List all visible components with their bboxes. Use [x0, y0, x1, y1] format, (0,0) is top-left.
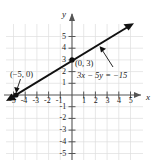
x-tick-label-3: 3 [105, 97, 109, 105]
grid-lines [6, 24, 143, 160]
y-tick-label-4: 4 [62, 44, 66, 52]
x-tick-label--4: -4 [21, 97, 28, 105]
x-tick-label-2: 2 [94, 97, 98, 105]
y-tick-label--2: -2 [60, 114, 67, 122]
y-tick-label--5: -5 [60, 150, 67, 158]
y-tick-label--4: -4 [60, 138, 67, 146]
y-tick-label-1: 1 [62, 79, 66, 87]
equation-label: 3x − 5y = −15 [77, 71, 127, 80]
axes [4, 14, 141, 160]
coordinate-plane-svg [0, 0, 155, 165]
y-intercept-point-label: (0, 3) [75, 59, 93, 68]
x-axis-label: x [146, 93, 150, 102]
x-tick-label--5: -5 [9, 97, 16, 105]
x-tick-label-4: 4 [117, 97, 121, 105]
y-tick-label--3: -3 [60, 126, 67, 134]
y-axis-arrowhead [69, 13, 75, 21]
y-tick-label--1: -1 [60, 103, 67, 111]
x-intercept-point-label: (−5, 0) [10, 70, 33, 79]
y-tick-label-2: 2 [62, 68, 66, 76]
x-tick-label-5: 5 [129, 97, 133, 105]
y-tick-label-3: 3 [62, 56, 66, 64]
point-marker-y-intercept [69, 57, 74, 62]
x-tick-label--2: -2 [44, 97, 51, 105]
x-axis-arrowhead [134, 92, 141, 98]
graph-figure: y x -5 -4 -3 -2 -1 1 2 3 4 5 5 4 3 2 1 -… [0, 0, 155, 165]
x-tick-label-1: 1 [82, 97, 86, 105]
y-tick-label-5: 5 [62, 33, 66, 41]
y-axis-label: y [62, 10, 66, 19]
x-tick-label--3: -3 [32, 97, 39, 105]
